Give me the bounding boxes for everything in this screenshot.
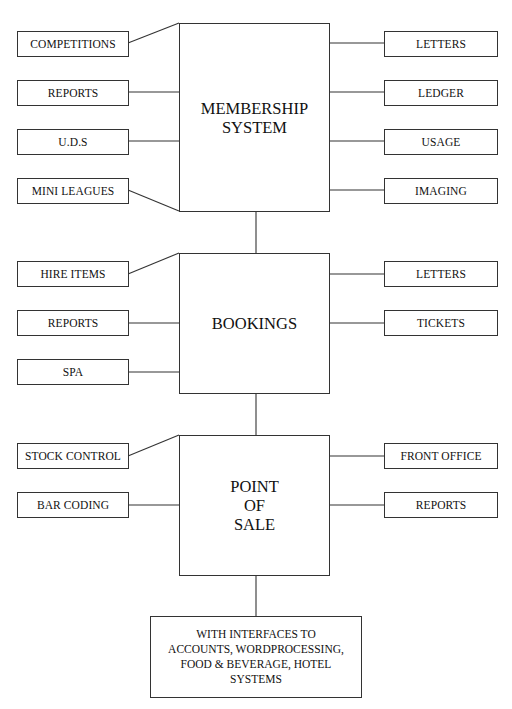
module-stock-control: STOCK CONTROL (17, 443, 129, 469)
module-bookings-reports: REPORTS (17, 310, 129, 336)
membership-label-line-1: MEMBERSHIP (201, 99, 308, 118)
bookings-box: BOOKINGS (179, 253, 330, 394)
interfaces-line-3: FOOD & BEVERAGE, HOTEL (181, 657, 332, 672)
pos-label-line-3: SALE (234, 515, 275, 534)
module-membership-letters: LETTERS (384, 31, 498, 57)
module-ledger: LEDGER (384, 80, 498, 106)
module-tickets: TICKETS (384, 310, 498, 336)
module-bookings-letters: LETTERS (384, 261, 498, 287)
bookings-label: BOOKINGS (212, 314, 297, 333)
module-pos-reports: REPORTS (384, 492, 498, 518)
module-front-office: FRONT OFFICE (384, 443, 498, 469)
membership-label-line-2: SYSTEM (222, 118, 287, 137)
module-spa: SPA (17, 359, 129, 385)
module-bar-coding: BAR CODING (17, 492, 129, 518)
membership-system-box: MEMBERSHIP SYSTEM (179, 23, 330, 212)
module-imaging: IMAGING (384, 178, 498, 204)
module-mini-leagues: MINI LEAGUES (17, 178, 129, 204)
module-uds: U.D.S (17, 129, 129, 155)
pos-label-line-2: OF (244, 496, 265, 515)
module-hire-items: HIRE ITEMS (17, 261, 129, 287)
module-usage: USAGE (384, 129, 498, 155)
interfaces-line-2: ACCOUNTS, WORDPROCESSING, (168, 642, 344, 657)
interfaces-line-1: WITH INTERFACES TO (196, 627, 315, 642)
pos-label-line-1: POINT (230, 477, 279, 496)
module-membership-reports: REPORTS (17, 80, 129, 106)
system-architecture-diagram: MEMBERSHIP SYSTEM COMPETITIONS REPORTS U… (0, 0, 512, 709)
interfaces-box: WITH INTERFACES TO ACCOUNTS, WORDPROCESS… (150, 616, 362, 698)
module-competitions: COMPETITIONS (17, 31, 129, 57)
interfaces-line-4: SYSTEMS (230, 672, 282, 687)
point-of-sale-box: POINT OF SALE (179, 435, 330, 576)
